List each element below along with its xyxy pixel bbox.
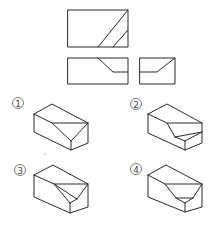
svg-text:3: 3 bbox=[17, 166, 23, 176]
svg-text:4: 4 bbox=[133, 165, 139, 175]
top-view bbox=[68, 10, 128, 47]
stray-dot bbox=[44, 153, 46, 155]
svg-text:2: 2 bbox=[133, 100, 139, 110]
option-3-shape bbox=[34, 165, 88, 213]
option-1-label: 1 bbox=[13, 98, 24, 109]
front-view bbox=[68, 58, 128, 84]
option-4-label: 4 bbox=[131, 164, 142, 175]
side-view bbox=[140, 58, 175, 84]
option-3-label: 3 bbox=[15, 165, 26, 176]
option-1-shape bbox=[34, 104, 88, 150]
option-4[interactable]: 4 bbox=[131, 164, 203, 213]
option-2[interactable]: 2 bbox=[131, 99, 203, 151]
option-4-shape bbox=[148, 165, 202, 212]
option-2-shape bbox=[148, 104, 202, 150]
diagram-canvas: 1 2 3 bbox=[0, 0, 219, 228]
option-3[interactable]: 3 bbox=[15, 165, 89, 214]
svg-text:1: 1 bbox=[15, 99, 21, 109]
option-2-label: 2 bbox=[131, 99, 142, 110]
option-1[interactable]: 1 bbox=[13, 98, 89, 151]
